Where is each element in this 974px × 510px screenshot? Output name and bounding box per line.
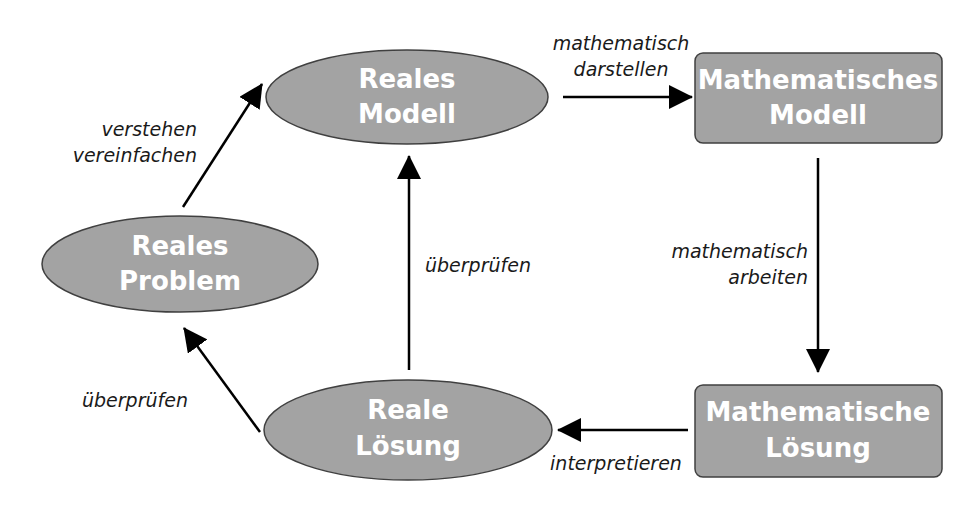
arrow-reale-loesung-to-problem xyxy=(184,328,260,432)
node-mathematische-loesung: Mathematische Lösung xyxy=(695,385,942,477)
node-label-line2: Problem xyxy=(119,266,241,296)
node-reale-loesung: Reale Lösung xyxy=(264,380,552,480)
node-label-line1: Reales xyxy=(131,231,228,261)
node-label-line2: Lösung xyxy=(765,433,871,463)
edge-label-mathematisch-darstellen-2: darstellen xyxy=(574,58,669,80)
node-label-line2: Modell xyxy=(769,100,867,130)
edge-label-mathematisch-arbeiten-1: mathematisch xyxy=(671,240,808,262)
node-label-line1: Reale xyxy=(367,395,449,425)
node-label-line1: Reales xyxy=(358,64,455,94)
node-reales-modell: Reales Modell xyxy=(266,50,548,144)
edge-label-verstehen: verstehen xyxy=(101,118,197,140)
edge-label-mathematisch-darstellen-1: mathematisch xyxy=(553,32,690,54)
node-mathematisches-modell: Mathematisches Modell xyxy=(695,53,942,143)
edge-label-ueberpruefen-center: überprüfen xyxy=(425,254,531,276)
node-label-line2: Lösung xyxy=(355,431,461,461)
edge-label-mathematisch-arbeiten-2: arbeiten xyxy=(728,266,808,288)
node-label-line2: Modell xyxy=(358,99,456,129)
node-label-line1: Mathematisches xyxy=(698,65,938,95)
edge-label-ueberpruefen-left: überprüfen xyxy=(82,389,188,411)
edge-label-vereinfachen: vereinfachen xyxy=(73,144,197,166)
edge-label-interpretieren: interpretieren xyxy=(550,452,682,474)
node-reales-problem: Reales Problem xyxy=(42,216,318,312)
node-label-line1: Mathematische xyxy=(706,397,931,427)
modeling-cycle-diagram: Reales Modell Mathematisches Modell Real… xyxy=(0,0,974,510)
